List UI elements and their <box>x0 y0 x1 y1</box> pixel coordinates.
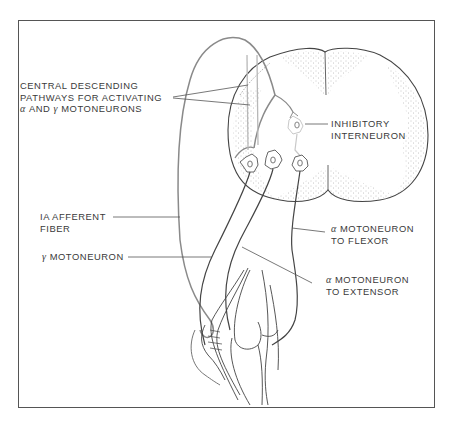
label-alpha-motoneuron-extensor: α MOTONEURON TO EXTENSOR <box>326 274 409 297</box>
flexor-motoneuron-text: MOTONEURON <box>340 223 414 234</box>
gamma-motoneuron-axon <box>200 172 250 345</box>
greek-gamma: γ <box>42 251 47 262</box>
greek-alpha: α <box>20 103 26 114</box>
motoneurons-text: MOTONEURONS <box>61 103 142 114</box>
greek-gamma: γ <box>54 103 59 114</box>
label-ia-afferent-line1: IA AFFERENT <box>40 211 106 223</box>
label-central-descending-line2: PATHWAYS FOR ACTIVATING <box>20 92 162 104</box>
label-ia-afferent-fiber: IA AFFERENT FIBER <box>40 211 106 234</box>
label-central-descending-line1: CENTRAL DESCENDING <box>20 80 162 92</box>
label-central-descending-line3: α AND γ MOTONEURONS <box>20 103 162 115</box>
greek-alpha: α <box>331 223 337 234</box>
label-extensor-line2: TO EXTENSOR <box>326 286 409 298</box>
label-flexor-line1: α MOTONEURON <box>331 223 414 235</box>
label-inhibitory-line1: INHIBITORY <box>331 118 406 130</box>
label-gamma-motoneuron: γ MOTONEURON <box>42 251 124 263</box>
alpha-extensor-motoneuron-cell <box>265 150 282 169</box>
greek-alpha: α <box>326 274 332 285</box>
and-text: AND <box>29 103 50 114</box>
label-extensor-line1: α MOTONEURON <box>326 274 409 286</box>
label-inhibitory-line2: INTERNEURON <box>331 130 406 142</box>
label-central-descending-pathways: CENTRAL DESCENDING PATHWAYS FOR ACTIVATI… <box>20 80 162 115</box>
label-alpha-motoneuron-flexor: α MOTONEURON TO FLEXOR <box>331 223 414 246</box>
gamma-motoneuron-text: MOTONEURON <box>50 251 124 262</box>
inhibitory-interneuron <box>288 116 303 158</box>
label-ia-afferent-line2: FIBER <box>40 223 106 235</box>
alpha-flexor-motoneuron-cell <box>292 155 308 171</box>
extensor-motoneuron-text: MOTONEURON <box>335 274 409 285</box>
label-flexor-line2: TO FLEXOR <box>331 235 414 247</box>
label-inhibitory-interneuron: INHIBITORY INTERNEURON <box>331 118 406 141</box>
